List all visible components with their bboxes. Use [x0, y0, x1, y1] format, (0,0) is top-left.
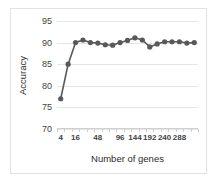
data-point-marker	[177, 39, 182, 44]
x-axis-tick-mark	[191, 129, 192, 132]
data-point-marker	[66, 62, 71, 67]
data-point-marker	[192, 40, 197, 45]
x-axis-tick-label: 16	[71, 134, 80, 142]
x-axis-tick-mark	[131, 129, 132, 132]
chart-container: Accuracy 707580859095 416489614419224028…	[10, 8, 207, 174]
x-axis-tick-label: 144	[128, 134, 141, 142]
plot-area: 707580859095 4164896144192240288	[57, 21, 198, 129]
data-point-marker	[147, 44, 152, 49]
data-point-marker	[117, 40, 122, 45]
x-axis-tick-mark	[124, 129, 125, 132]
y-axis-title-label: Accuracy	[18, 55, 29, 94]
data-point-marker	[103, 42, 108, 47]
data-point-marker	[110, 43, 115, 48]
x-axis-tick-label: 48	[93, 134, 102, 142]
y-axis-title: Accuracy	[17, 21, 29, 129]
x-axis-tick-label: 288	[173, 134, 186, 142]
x-axis-tick-label: 240	[158, 134, 171, 142]
y-axis-tick-label: 85	[42, 60, 52, 69]
accuracy-line-series	[57, 21, 198, 129]
x-axis-tick-mark	[87, 129, 88, 132]
x-axis-tick-mark	[168, 129, 169, 132]
x-axis-tick-mark	[139, 129, 140, 132]
data-point-marker	[155, 41, 160, 46]
data-point-marker	[73, 40, 78, 45]
x-axis-tick-mark	[64, 129, 65, 132]
x-axis-tick-label: 192	[143, 134, 156, 142]
y-axis-tick-label: 80	[42, 81, 52, 90]
gridline	[57, 129, 198, 130]
data-point-marker	[125, 38, 130, 43]
x-axis-tick-label: 96	[116, 134, 125, 142]
data-point-marker	[184, 40, 189, 45]
y-axis-tick-label: 70	[42, 125, 52, 134]
data-point-marker	[95, 40, 100, 45]
data-point-marker	[58, 96, 63, 101]
x-axis-tick-mark	[94, 129, 95, 132]
series-line	[61, 38, 195, 99]
y-axis-tick-label: 90	[42, 38, 52, 47]
x-axis-tick-mark	[183, 129, 184, 132]
y-axis-tick-label: 95	[42, 17, 52, 26]
x-axis-tick-mark	[79, 129, 80, 132]
x-axis-tick-mark	[153, 129, 154, 132]
x-axis-tick-mark	[109, 129, 110, 132]
data-point-marker	[169, 39, 174, 44]
x-axis-tick-mark	[116, 129, 117, 132]
x-axis-tick-mark	[102, 129, 103, 132]
data-point-marker	[162, 39, 167, 44]
x-axis-tick-mark	[146, 129, 147, 132]
x-axis-tick-mark	[72, 129, 73, 132]
x-axis-tick-mark	[198, 129, 199, 132]
x-axis-tick-mark	[161, 129, 162, 132]
x-axis-tick-mark	[176, 129, 177, 132]
x-axis-tick-label: 4	[58, 134, 62, 142]
x-axis-title: Number of genes	[57, 153, 198, 164]
x-axis-tick-mark	[57, 129, 58, 132]
data-point-marker	[88, 40, 93, 45]
data-point-marker	[80, 37, 85, 42]
data-point-marker	[132, 35, 137, 40]
data-point-marker	[140, 37, 145, 42]
y-axis-tick-label: 75	[42, 103, 52, 112]
